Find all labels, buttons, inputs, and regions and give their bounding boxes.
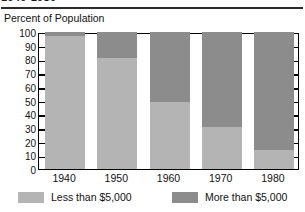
bar-1940 (45, 32, 85, 169)
y-axis-tick-labels: 0102030405060708090100 (0, 33, 36, 170)
legend-item: More than $5,000 (172, 191, 287, 203)
bar-segment (150, 102, 190, 169)
y-tick-label: 70 (2, 69, 36, 80)
x-tick-label-1960: 1960 (141, 172, 197, 184)
y-tick-label: 100 (2, 28, 36, 39)
y-tick-label: 0 (2, 165, 36, 176)
x-tick-label-1980: 1980 (245, 172, 301, 184)
y-tick-label: 30 (2, 123, 36, 134)
bar-segment (202, 127, 242, 169)
chart-title: 1940-1980 (1, 0, 56, 3)
y-tick-label: 40 (2, 110, 36, 121)
x-tick-label-1940: 1940 (36, 172, 92, 184)
plot-frame (38, 33, 299, 170)
y-axis-caption: Percent of Population (4, 12, 104, 24)
bar-segment (150, 32, 190, 102)
bar-1960 (150, 32, 190, 169)
y-tick-label: 90 (2, 41, 36, 52)
y-tick-label: 50 (2, 96, 36, 107)
bar-1970 (202, 32, 242, 169)
plot-area (39, 34, 298, 169)
y-tick-label: 20 (2, 137, 36, 148)
bar-1980 (254, 32, 294, 169)
bar-segment (45, 36, 85, 169)
x-tick-label-1970: 1970 (193, 172, 249, 184)
bar-segment (202, 32, 242, 127)
legend-item: Less than $5,000 (18, 191, 132, 203)
chart-legend: Less than $5,000More than $5,000 (0, 191, 305, 209)
bar-segment (254, 150, 294, 169)
x-tick-label-1950: 1950 (88, 172, 144, 184)
bar-segment (254, 32, 294, 150)
legend-swatch (18, 192, 44, 203)
y-tick-label: 10 (2, 151, 36, 162)
legend-label: Less than $5,000 (51, 191, 132, 203)
bar-segment (97, 32, 137, 58)
x-axis-tick-labels: 19401950196019701980 (38, 172, 299, 188)
legend-swatch (172, 192, 198, 203)
legend-label: More than $5,000 (205, 191, 287, 203)
title-divider-rule (1, 7, 303, 9)
bar-1950 (97, 32, 137, 169)
y-tick-label: 60 (2, 82, 36, 93)
bar-segment (97, 58, 137, 169)
y-tick-label: 80 (2, 55, 36, 66)
bar-segment (45, 32, 85, 36)
